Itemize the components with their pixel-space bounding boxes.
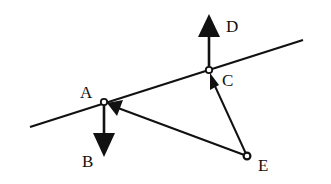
label-c: C bbox=[222, 71, 233, 90]
label-d: D bbox=[226, 17, 238, 36]
inclined-line bbox=[30, 40, 303, 127]
point-c bbox=[206, 67, 212, 73]
point-a bbox=[101, 99, 107, 105]
point-e bbox=[244, 153, 251, 160]
arrow-a-to-b bbox=[93, 104, 115, 157]
label-a: A bbox=[80, 83, 93, 102]
diagram-canvas: A B C D E bbox=[0, 0, 331, 184]
arrow-c-to-d bbox=[198, 14, 220, 68]
label-e: E bbox=[258, 156, 268, 175]
label-b: B bbox=[82, 152, 93, 171]
